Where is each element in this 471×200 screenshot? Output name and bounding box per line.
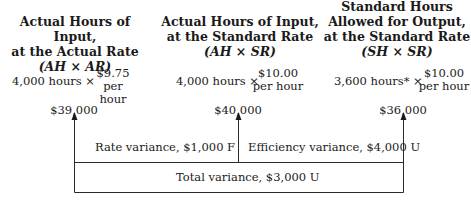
middle-arrowhead-icon	[236, 112, 242, 120]
total-variance-label: Total variance, $3,000 U	[176, 170, 319, 184]
efficiency-variance-label: Efficiency variance, $4,000 U	[248, 140, 420, 154]
left-arrowhead-icon	[72, 112, 78, 120]
rate-variance-label: Rate variance, $1,000 F	[95, 140, 235, 154]
right-arrowhead-icon	[401, 112, 407, 120]
